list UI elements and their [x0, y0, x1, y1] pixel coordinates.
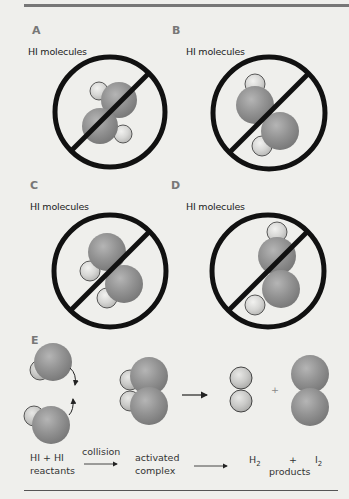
collision-label: collision	[82, 446, 120, 458]
panel-e-products	[230, 355, 329, 426]
motion-arrow-icon	[70, 368, 75, 385]
prohibited-sign-icon	[54, 215, 166, 327]
iodine-atom	[82, 108, 118, 144]
hydrogen-atom	[230, 367, 252, 389]
motion-arrow-icon	[69, 399, 73, 415]
panel-c-molecules	[54, 215, 166, 327]
reactants-formula: HI + HI	[30, 452, 64, 464]
bottom-rule	[24, 490, 338, 491]
complex-label: complex	[135, 465, 175, 477]
iodine-atom	[88, 233, 126, 271]
plus-sign: +	[271, 384, 279, 396]
panel-d-molecules	[212, 215, 324, 327]
product-i2: I2	[315, 454, 322, 470]
iodine-atom	[34, 343, 72, 381]
panel-a-molecules	[55, 57, 165, 167]
products-plus: +	[289, 454, 297, 466]
hydrogen-atom	[230, 390, 252, 412]
product-i2-subscript: 2	[318, 460, 322, 468]
activated-label: activated	[135, 452, 179, 464]
products-label: products	[269, 466, 311, 478]
product-h2-subscript: 2	[256, 460, 260, 468]
hydrogen-atom	[245, 295, 265, 315]
panel-e-reactants	[24, 343, 75, 444]
iodine-atom	[258, 237, 296, 275]
panel-e-activated-complex	[120, 357, 168, 425]
iodine-atom	[32, 406, 70, 444]
prohibited-sign-icon	[55, 57, 165, 167]
product-h2: H2	[249, 454, 261, 470]
molecule-drawings	[0, 0, 349, 499]
iodine-atom	[291, 388, 329, 426]
iodine-atom	[291, 355, 329, 393]
reactants-label: reactants	[30, 465, 75, 477]
iodine-atom	[262, 270, 300, 308]
iodine-atom	[130, 387, 168, 425]
panel-b-molecules	[213, 57, 325, 169]
hi-collision-figure: A HI molecules B HI molecules C HI molec…	[0, 0, 349, 499]
